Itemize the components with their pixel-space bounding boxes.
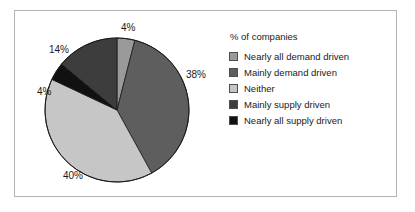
- legend-item-nearly-all-demand-driven: Nearly all demand driven: [229, 48, 389, 64]
- legend-item-nearly-all-supply-driven: Nearly all supply driven: [229, 112, 389, 128]
- pie-chart-figure: 4% 38% 40% 4% 14% % of companies Nearly …: [0, 0, 415, 212]
- legend-swatch-icon-2: [229, 84, 238, 93]
- slice-value-label-4: 14%: [49, 44, 69, 55]
- legend-swatch-icon-0: [229, 52, 238, 61]
- legend-swatch-icon-4: [229, 116, 238, 125]
- pie-svg: [14, 10, 214, 200]
- slice-value-label-2: 40%: [63, 170, 83, 181]
- legend-item-mainly-supply-driven: Mainly supply driven: [229, 96, 389, 112]
- legend-swatch-icon-1: [229, 68, 238, 77]
- legend-label-2: Neither: [244, 83, 275, 94]
- legend-item-neither: Neither: [229, 80, 389, 96]
- legend-label-4: Nearly all supply driven: [244, 115, 342, 126]
- legend-label-3: Mainly supply driven: [244, 99, 330, 110]
- legend-title: % of companies: [230, 31, 389, 42]
- legend-label-0: Nearly all demand driven: [244, 51, 349, 62]
- legend-label-1: Mainly demand driven: [244, 67, 337, 78]
- pie-plot-area: 4% 38% 40% 4% 14%: [14, 10, 214, 200]
- slice-value-label-1: 38%: [186, 69, 206, 80]
- slice-value-label-0: 4%: [121, 22, 135, 33]
- slice-value-label-3: 4%: [37, 86, 51, 97]
- pie-slice-group: [45, 38, 189, 182]
- legend-swatch-icon-3: [229, 100, 238, 109]
- legend-item-mainly-demand-driven: Mainly demand driven: [229, 64, 389, 80]
- chart-legend: % of companies Nearly all demand driven …: [229, 31, 389, 128]
